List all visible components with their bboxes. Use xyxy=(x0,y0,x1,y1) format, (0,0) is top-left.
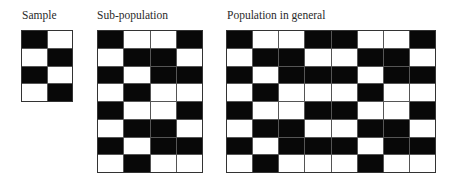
filled-cell xyxy=(177,67,202,84)
filled-cell xyxy=(151,49,176,66)
empty-cell xyxy=(305,84,330,101)
filled-cell xyxy=(279,49,304,66)
empty-cell xyxy=(227,49,252,66)
empty-cell xyxy=(227,84,252,101)
empty-cell xyxy=(410,120,435,137)
empty-cell xyxy=(279,102,304,119)
filled-cell xyxy=(177,31,202,48)
filled-cell xyxy=(305,67,330,84)
empty-cell xyxy=(124,31,149,48)
filled-cell xyxy=(358,84,383,101)
filled-cell xyxy=(98,138,123,155)
filled-cell xyxy=(227,102,252,119)
filled-cell xyxy=(358,49,383,66)
filled-cell xyxy=(279,120,304,137)
empty-cell xyxy=(151,84,176,101)
empty-cell xyxy=(177,84,202,101)
empty-cell xyxy=(227,155,252,172)
empty-cell xyxy=(151,155,176,172)
filled-cell xyxy=(384,49,409,66)
empty-cell xyxy=(384,102,409,119)
empty-cell xyxy=(279,155,304,172)
sample-grid xyxy=(21,30,73,102)
empty-cell xyxy=(124,102,149,119)
filled-cell xyxy=(227,31,252,48)
filled-cell xyxy=(332,102,357,119)
filled-cell xyxy=(177,138,202,155)
filled-cell xyxy=(279,138,304,155)
filled-cell xyxy=(384,120,409,137)
population-grid xyxy=(226,30,436,173)
filled-cell xyxy=(253,120,278,137)
filled-cell xyxy=(332,31,357,48)
empty-cell xyxy=(410,155,435,172)
filled-cell xyxy=(384,67,409,84)
empty-cell xyxy=(98,49,123,66)
sub-population-grid xyxy=(97,30,203,173)
filled-cell xyxy=(253,155,278,172)
filled-cell xyxy=(124,84,149,101)
empty-cell xyxy=(22,84,47,101)
empty-cell xyxy=(332,120,357,137)
empty-cell xyxy=(358,102,383,119)
filled-cell xyxy=(279,67,304,84)
sub-population-label: Sub-population xyxy=(97,10,168,22)
filled-cell xyxy=(124,49,149,66)
empty-cell xyxy=(358,31,383,48)
empty-cell xyxy=(332,155,357,172)
empty-cell xyxy=(253,67,278,84)
filled-cell xyxy=(410,31,435,48)
filled-cell xyxy=(332,138,357,155)
filled-cell xyxy=(410,138,435,155)
filled-cell xyxy=(177,102,202,119)
filled-cell xyxy=(124,120,149,137)
filled-cell xyxy=(358,155,383,172)
empty-cell xyxy=(305,155,330,172)
empty-cell xyxy=(279,31,304,48)
empty-cell xyxy=(332,84,357,101)
empty-cell xyxy=(48,31,73,48)
empty-cell xyxy=(410,84,435,101)
empty-cell xyxy=(253,102,278,119)
filled-cell xyxy=(48,49,73,66)
filled-cell xyxy=(253,49,278,66)
filled-cell xyxy=(384,138,409,155)
empty-cell xyxy=(279,84,304,101)
empty-cell xyxy=(332,49,357,66)
empty-cell xyxy=(358,67,383,84)
empty-cell xyxy=(177,120,202,137)
empty-cell xyxy=(384,155,409,172)
empty-cell xyxy=(177,49,202,66)
filled-cell xyxy=(98,67,123,84)
filled-cell xyxy=(305,102,330,119)
empty-cell xyxy=(151,102,176,119)
empty-cell xyxy=(98,120,123,137)
empty-cell xyxy=(253,138,278,155)
empty-cell xyxy=(98,84,123,101)
empty-cell xyxy=(48,67,73,84)
filled-cell xyxy=(410,102,435,119)
empty-cell xyxy=(384,84,409,101)
population-label: Population in general xyxy=(227,10,325,22)
filled-cell xyxy=(253,84,278,101)
filled-cell xyxy=(151,138,176,155)
filled-cell xyxy=(124,155,149,172)
empty-cell xyxy=(177,155,202,172)
empty-cell xyxy=(358,138,383,155)
empty-cell xyxy=(305,120,330,137)
filled-cell xyxy=(98,31,123,48)
filled-cell xyxy=(332,67,357,84)
empty-cell xyxy=(227,120,252,137)
filled-cell xyxy=(151,120,176,137)
empty-cell xyxy=(124,138,149,155)
filled-cell xyxy=(305,31,330,48)
empty-cell xyxy=(124,67,149,84)
filled-cell xyxy=(305,138,330,155)
filled-cell xyxy=(151,67,176,84)
filled-cell xyxy=(358,120,383,137)
filled-cell xyxy=(410,67,435,84)
filled-cell xyxy=(227,138,252,155)
empty-cell xyxy=(384,31,409,48)
filled-cell xyxy=(22,67,47,84)
filled-cell xyxy=(227,67,252,84)
